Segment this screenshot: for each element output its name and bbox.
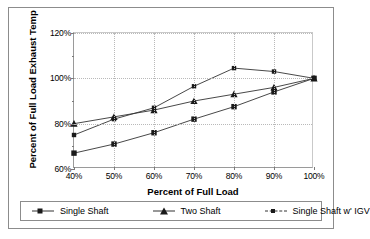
gridline-horizontal bbox=[74, 33, 312, 34]
gridline-vertical bbox=[194, 33, 195, 167]
legend-label: Single Shaft bbox=[60, 206, 109, 216]
gridline-vertical bbox=[234, 33, 235, 167]
gridline-vertical bbox=[154, 33, 155, 167]
x-axis-tick-mark bbox=[274, 167, 275, 170]
x-axis-tick-label: 70% bbox=[186, 171, 202, 181]
x-axis-tick-mark bbox=[114, 167, 115, 170]
square-small-marker-icon bbox=[265, 206, 287, 216]
y-axis-minor-tick-mark bbox=[72, 56, 74, 57]
data-point-marker bbox=[312, 76, 316, 80]
gridline-vertical bbox=[114, 33, 115, 167]
y-axis-tick-mark bbox=[71, 33, 74, 34]
x-axis-tick-mark bbox=[234, 167, 235, 170]
y-axis-tick-mark bbox=[71, 124, 74, 125]
x-axis-tick-mark bbox=[314, 167, 315, 170]
x-axis-tick-label: 60% bbox=[146, 171, 162, 181]
x-axis-tick-mark bbox=[74, 167, 75, 170]
y-axis-tick-label: 80% bbox=[55, 119, 71, 129]
legend-item-single-shaft: Single Shaft bbox=[32, 206, 109, 216]
x-axis-title: Percent of Full Load bbox=[73, 186, 313, 197]
x-axis-tick-mark bbox=[194, 167, 195, 170]
y-axis-minor-tick-mark bbox=[72, 101, 74, 102]
x-axis-tick-label: 90% bbox=[266, 171, 282, 181]
square-marker-icon bbox=[32, 206, 54, 216]
triangle-marker-icon bbox=[153, 206, 175, 216]
y-axis-tick-label: 120% bbox=[50, 28, 71, 38]
chart-area: Percent of Full Load Exhaust Temp 60%80%… bbox=[9, 8, 335, 194]
y-axis-tick-mark bbox=[71, 78, 74, 79]
x-axis-tick-label: 80% bbox=[226, 171, 242, 181]
y-axis-tick-label: 100% bbox=[50, 73, 71, 83]
legend-label: Single Shaft w' IGV bbox=[293, 206, 370, 216]
legend-label: Two Shaft bbox=[181, 206, 221, 216]
x-axis-tick-mark bbox=[154, 167, 155, 170]
y-axis-minor-tick-mark bbox=[72, 146, 74, 147]
chart-legend: Single Shaft Two Shaft Single Shaft w' I… bbox=[20, 201, 322, 221]
x-axis-tick-label: 40% bbox=[66, 171, 82, 181]
y-axis-title: Percent of Full Load Exhaust Temp bbox=[27, 19, 38, 169]
gridline-horizontal bbox=[74, 124, 312, 125]
x-axis-tick-label: 100% bbox=[304, 171, 325, 181]
legend-item-single-shaft-igv: Single Shaft w' IGV bbox=[265, 206, 370, 216]
data-point-marker bbox=[72, 133, 76, 137]
data-point-marker bbox=[71, 150, 76, 155]
chart-figure-frame: Percent of Full Load Exhaust Temp 60%80%… bbox=[8, 7, 334, 229]
gridline-vertical bbox=[274, 33, 275, 167]
x-axis-tick-label: 50% bbox=[106, 171, 122, 181]
gridline-horizontal bbox=[74, 78, 312, 79]
plot-area: 60%80%100%120%40%50%60%70%80%90%100% bbox=[73, 32, 313, 168]
legend-item-two-shaft: Two Shaft bbox=[153, 206, 221, 216]
